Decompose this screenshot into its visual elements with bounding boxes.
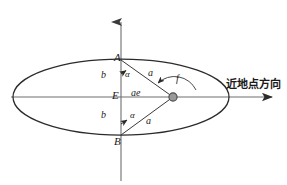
- label-apex-top: A: [114, 52, 121, 63]
- diagram-vector-layer: [0, 0, 287, 185]
- label-semi-minor-top: b: [101, 70, 106, 80]
- label-semi-major-top: a: [148, 68, 153, 78]
- label-true-anomaly: f: [176, 74, 179, 84]
- label-focal-distance: ae: [131, 88, 140, 98]
- label-perigee-direction: 近地点方向: [226, 79, 281, 90]
- label-semi-major-bottom: a: [146, 116, 151, 126]
- label-semi-minor-bottom: b: [101, 110, 106, 120]
- label-angle-bottom: α: [130, 111, 135, 120]
- label-angle-top: α: [125, 70, 130, 79]
- focus-point: [169, 93, 177, 101]
- label-center: E: [112, 90, 119, 101]
- angle-marker-bottom: [121, 120, 127, 124]
- label-apex-bottom: B: [114, 136, 121, 147]
- orbit-diagram-canvas: A B E b b α α a a ae f 近地点方向: [0, 0, 287, 185]
